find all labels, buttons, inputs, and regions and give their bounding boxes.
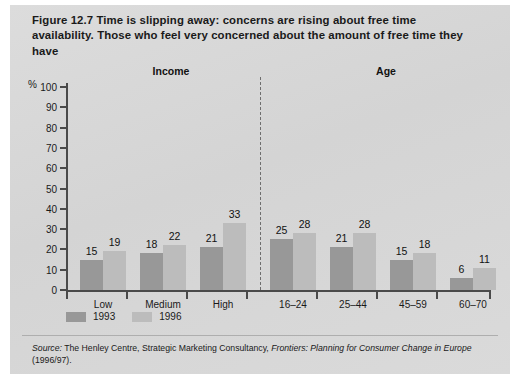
legend-swatch (132, 312, 152, 322)
bar-1993: 15 (80, 260, 103, 290)
x-axis-line (66, 290, 491, 292)
x-axis-tick (316, 292, 318, 299)
x-axis-category-label: 60–70 (459, 299, 487, 310)
bar-1996: 19 (103, 251, 126, 290)
bar-1996: 28 (353, 233, 376, 290)
section-header-age: Age (376, 65, 396, 77)
bar-value-label: 28 (299, 218, 311, 230)
legend-label: 1996 (159, 311, 181, 322)
x-axis-tick (66, 292, 68, 299)
source-publication-title: Frontiers: Planning for Consumer Change … (271, 343, 471, 353)
x-axis-tick (376, 292, 378, 299)
y-axis-tick (60, 228, 66, 230)
x-axis-tick (489, 292, 491, 299)
y-axis-tick (60, 86, 66, 88)
y-axis-tick (60, 147, 66, 149)
y-axis-tick (60, 208, 66, 210)
x-axis-tick (186, 292, 188, 299)
y-axis-tick (60, 127, 66, 129)
bar-1996: 11 (473, 268, 496, 290)
section-header-income: Income (153, 65, 190, 77)
bar-value-label: 28 (359, 218, 371, 230)
bar-value-label: 11 (479, 253, 490, 265)
source-label: Source: (32, 343, 62, 353)
bar-value-label: 15 (86, 245, 98, 257)
y-axis-label: 0 (51, 285, 57, 296)
y-axis-label: 50 (46, 183, 57, 194)
bar-value-label: 22 (169, 230, 181, 242)
bar-1996: 22 (163, 245, 186, 290)
y-axis-tick (60, 188, 66, 190)
y-axis-line (66, 83, 68, 292)
bar-value-label: 15 (396, 245, 408, 257)
y-axis-label: 90 (46, 102, 57, 113)
bar-value-label: 21 (336, 232, 348, 244)
y-axis-label: 20 (46, 244, 57, 255)
bar-1993: 21 (200, 247, 223, 290)
legend-item: 1996 (132, 311, 181, 322)
y-axis-label: 80 (46, 122, 57, 133)
bar-value-label: 33 (229, 208, 241, 220)
source-note: Source: The Henley Centre, Strategic Mar… (32, 343, 492, 366)
bar-value-label: 21 (206, 232, 218, 244)
bar-1996: 33 (223, 223, 246, 290)
x-axis-tick (436, 292, 438, 299)
source-divider-rule (22, 335, 498, 336)
bar-1993: 18 (140, 253, 163, 290)
bar-value-label: 18 (146, 238, 158, 250)
bar-value-label: 25 (276, 224, 288, 236)
legend-item: 1993 (66, 311, 115, 322)
bar-1996: 28 (293, 233, 316, 290)
bar-value-label: 18 (419, 238, 431, 250)
y-axis-label: 40 (46, 203, 57, 214)
legend-swatch (66, 312, 86, 322)
x-axis-category-label: Low (94, 299, 112, 310)
figure-title: Figure 12.7 Time is slipping away: conce… (32, 13, 480, 59)
x-axis-category-label: 16–24 (279, 299, 307, 310)
x-axis-category-label: 25–44 (339, 299, 367, 310)
section-divider-dashed (260, 77, 261, 290)
bar-1993: 25 (270, 239, 293, 290)
legend-label: 1993 (93, 311, 115, 322)
bar-value-label: 19 (109, 236, 121, 248)
y-axis-tick (60, 106, 66, 108)
y-axis-label: 100 (40, 82, 57, 93)
bar-value-label: 6 (459, 263, 465, 275)
x-axis-category-label: Medium (145, 299, 181, 310)
bar-1993: 15 (390, 260, 413, 290)
y-axis-tick (60, 269, 66, 271)
figure-panel: Figure 12.7 Time is slipping away: conce… (10, 5, 510, 374)
y-axis-label: 10 (46, 264, 57, 275)
y-axis-label: 70 (46, 142, 57, 153)
y-axis-tick (60, 167, 66, 169)
chart-plot-area: 0102030405060708090100 IncomeAge 1519Low… (66, 83, 491, 292)
y-axis-label: 30 (46, 224, 57, 235)
y-axis-label: 60 (46, 163, 57, 174)
x-axis-category-label: 45–59 (399, 299, 427, 310)
source-body: The Henley Centre, Strategic Marketing C… (62, 343, 271, 353)
bar-1993: 21 (330, 247, 353, 290)
source-suffix: (1996/97). (32, 355, 72, 365)
bar-1993: 6 (450, 278, 473, 290)
bar-1996: 18 (413, 253, 436, 290)
y-axis-tick (60, 289, 66, 291)
x-axis-tick (246, 292, 248, 299)
y-axis-tick (60, 248, 66, 250)
x-axis-tick (126, 292, 128, 299)
x-axis-category-label: High (213, 299, 234, 310)
chart-legend: 19931996 (66, 311, 182, 322)
percent-axis-symbol: % (28, 79, 37, 90)
